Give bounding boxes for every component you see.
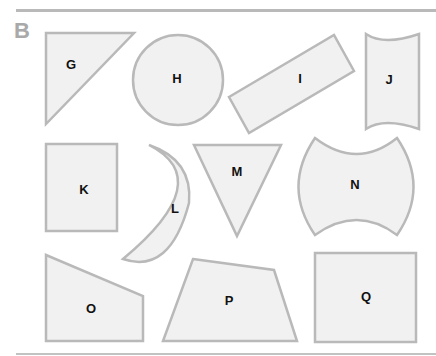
shape-k: K bbox=[46, 144, 117, 231]
shape-label: K bbox=[79, 182, 89, 197]
shape-l: L bbox=[123, 145, 189, 262]
inverted-triangle-shape bbox=[194, 145, 281, 236]
right-triangle-shape bbox=[46, 33, 134, 124]
shape-g: G bbox=[46, 33, 134, 124]
shapes-diagram: G H I J K L M N O P bbox=[0, 0, 436, 356]
shape-label: N bbox=[350, 177, 359, 192]
rotated-rectangle-shape bbox=[229, 35, 354, 133]
shape-n: N bbox=[299, 138, 414, 235]
shape-i: I bbox=[229, 35, 354, 133]
shape-label: O bbox=[86, 301, 96, 316]
shape-label: L bbox=[171, 201, 179, 216]
shape-m: M bbox=[194, 145, 281, 236]
bottom-rule bbox=[16, 353, 436, 355]
shape-label: Q bbox=[361, 289, 371, 304]
shape-label: P bbox=[225, 293, 234, 308]
shape-label: M bbox=[232, 164, 243, 179]
shape-j: J bbox=[366, 34, 419, 129]
shape-q: Q bbox=[315, 253, 416, 342]
shape-o: O bbox=[46, 255, 143, 341]
shape-label: H bbox=[172, 71, 181, 86]
shape-h: H bbox=[133, 35, 223, 125]
right-trapezoid-shape bbox=[46, 255, 143, 341]
shape-label: G bbox=[66, 57, 76, 72]
crescent-shape bbox=[123, 145, 189, 262]
shape-label: J bbox=[385, 72, 392, 87]
shape-label: I bbox=[298, 71, 302, 86]
shape-p: P bbox=[163, 259, 297, 341]
